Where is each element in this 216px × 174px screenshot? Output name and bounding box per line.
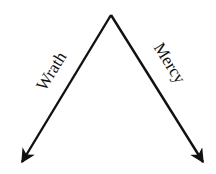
wrath-arrow xyxy=(22,15,111,162)
mercy-label: Mercy xyxy=(150,39,190,87)
wrath-label: Wrath xyxy=(32,48,71,94)
mercy-arrow xyxy=(111,15,203,162)
wrath-mercy-diagram: Wrath Mercy xyxy=(0,0,216,174)
